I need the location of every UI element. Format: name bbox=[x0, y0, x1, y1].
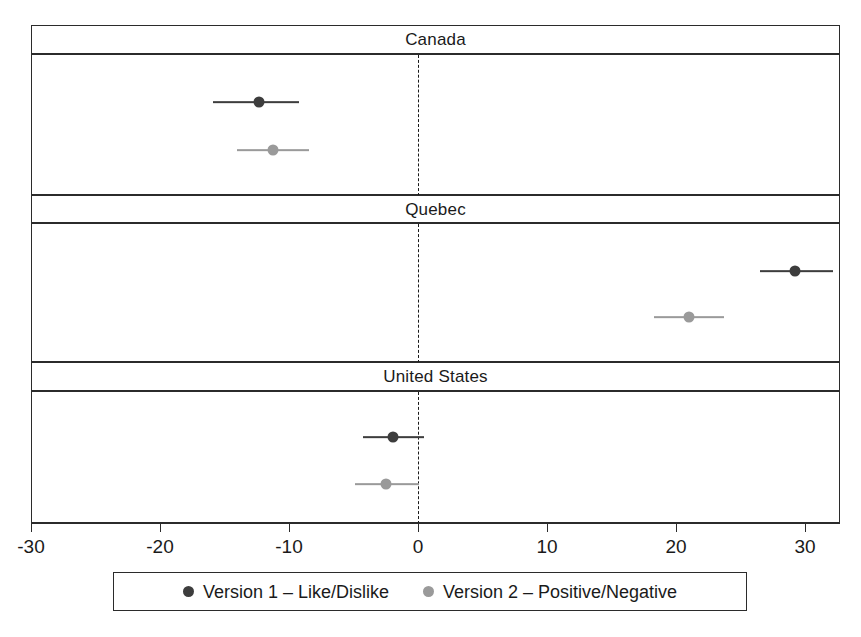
coefficient-plot-figure: Canada Quebec United States bbox=[0, 0, 861, 637]
axis-tick bbox=[418, 524, 419, 532]
estimate-point bbox=[268, 145, 279, 156]
panel-quebec bbox=[31, 223, 840, 362]
panel-united-states bbox=[31, 391, 840, 523]
axis-tick bbox=[676, 524, 677, 532]
axis-tick-label: 10 bbox=[536, 536, 557, 558]
panel-strip-united-states: United States bbox=[31, 362, 840, 391]
estimate-point bbox=[388, 432, 399, 443]
zero-reference-line-united-states bbox=[418, 392, 419, 524]
axis-tick bbox=[547, 524, 548, 532]
axis-tick bbox=[31, 524, 32, 532]
panel-canada bbox=[31, 54, 840, 195]
panel-strip-label: United States bbox=[383, 368, 488, 385]
legend: Version 1 – Like/Dislike Version 2 – Pos… bbox=[113, 572, 747, 611]
axis-tick-label: -20 bbox=[146, 536, 173, 558]
legend-entry-version2: Version 2 – Positive/Negative bbox=[423, 583, 677, 601]
panel-strip-quebec: Quebec bbox=[31, 195, 840, 223]
axis-tick-label: 0 bbox=[413, 536, 424, 558]
axis-tick bbox=[289, 524, 290, 532]
estimate-point bbox=[381, 479, 392, 490]
legend-key-circle-icon bbox=[183, 586, 194, 597]
axis-tick-label: 30 bbox=[794, 536, 815, 558]
estimate-point bbox=[790, 266, 801, 277]
legend-label: Version 2 – Positive/Negative bbox=[443, 583, 677, 601]
axis-tick-label: -10 bbox=[275, 536, 302, 558]
zero-reference-line-canada bbox=[418, 55, 419, 196]
legend-entry-version1: Version 1 – Like/Dislike bbox=[183, 583, 389, 601]
estimate-point bbox=[254, 97, 265, 108]
axis-tick bbox=[805, 524, 806, 532]
legend-label: Version 1 – Like/Dislike bbox=[203, 583, 389, 601]
panel-strip-canada: Canada bbox=[31, 25, 840, 54]
axis-line bbox=[31, 523, 840, 524]
axis-tick bbox=[160, 524, 161, 532]
zero-reference-line-quebec bbox=[418, 224, 419, 363]
estimate-point bbox=[684, 312, 695, 323]
panel-strip-label: Canada bbox=[405, 31, 466, 48]
panel-strip-label: Quebec bbox=[405, 201, 466, 218]
axis-tick-label: -30 bbox=[17, 536, 44, 558]
legend-key-circle-icon bbox=[423, 586, 434, 597]
axis-tick-label: 20 bbox=[665, 536, 686, 558]
